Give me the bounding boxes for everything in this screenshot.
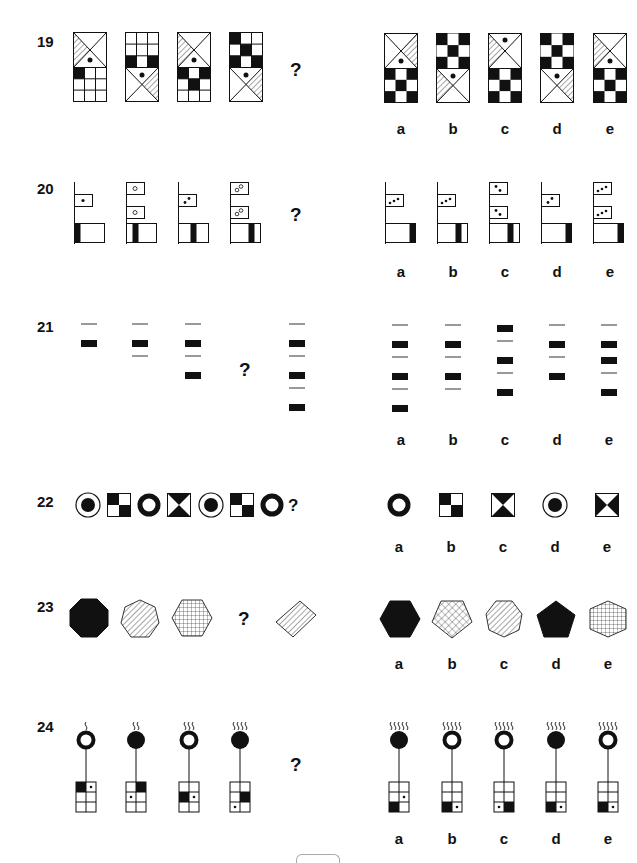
q22-label-c: c	[493, 538, 513, 555]
question-number-20: 20	[37, 180, 54, 197]
question-number-19: 19	[37, 33, 54, 50]
q22-seq-ring-1	[137, 493, 161, 517]
question-number-22: 22	[37, 493, 54, 510]
q20-label-b: b	[443, 263, 463, 280]
q21-option-e[interactable]	[601, 323, 617, 413]
q19-seq-4	[229, 32, 263, 102]
q19-seq-3	[177, 32, 211, 102]
q20-option-b[interactable]	[437, 182, 469, 244]
q19-option-b[interactable]	[436, 33, 470, 103]
q24-seq-4	[229, 720, 251, 812]
q23-seq-heptagon	[120, 599, 160, 638]
q22-seq-target-2	[198, 492, 224, 518]
q20-option-a[interactable]	[385, 182, 417, 244]
q24-missing-mark: ?	[290, 754, 302, 776]
q24-label-c: c	[494, 830, 514, 847]
question-number-24: 24	[37, 718, 54, 735]
q20-option-c[interactable]	[489, 182, 521, 244]
q23-missing-mark: ?	[238, 608, 250, 630]
q21-label-e: e	[599, 431, 619, 448]
q24-seq-3	[178, 720, 200, 812]
q23-label-d: d	[546, 655, 566, 672]
q19-label-e: e	[600, 120, 620, 137]
q22-seq-ring-2	[260, 493, 284, 517]
q19-label-c: c	[495, 120, 515, 137]
q22-label-a: a	[389, 538, 409, 555]
q19-option-a[interactable]	[384, 33, 418, 103]
q24-seq-1	[75, 720, 97, 812]
q24-option-b[interactable]	[441, 720, 463, 812]
q24-option-e[interactable]	[597, 720, 619, 812]
q20-label-a: a	[391, 263, 411, 280]
q21-seq-1	[81, 322, 97, 412]
q22-seq-quad-2	[230, 493, 254, 517]
q22-label-b: b	[441, 538, 461, 555]
q22-option-e[interactable]	[595, 493, 619, 517]
q22-option-d[interactable]	[542, 492, 568, 518]
q19-label-a: a	[391, 120, 411, 137]
q20-seq-1	[74, 182, 106, 244]
q22-option-b[interactable]	[439, 493, 463, 517]
q22-missing-mark: ?	[288, 496, 298, 516]
q24-option-a[interactable]	[388, 720, 410, 812]
page-number-tab	[296, 854, 340, 863]
q21-missing-mark: ?	[239, 359, 251, 381]
q23-option-e[interactable]	[589, 600, 627, 638]
q24-label-e: e	[598, 830, 618, 847]
q20-label-c: c	[495, 263, 515, 280]
q21-option-d[interactable]	[549, 323, 565, 413]
q23-label-b: b	[442, 655, 462, 672]
q22-seq-target-1	[75, 492, 101, 518]
q21-option-a[interactable]	[392, 323, 408, 413]
q23-seq-square	[275, 600, 317, 638]
q20-label-d: d	[547, 263, 567, 280]
question-number-21: 21	[37, 318, 54, 335]
q24-option-c[interactable]	[493, 720, 515, 812]
q20-option-d[interactable]	[541, 182, 573, 244]
q20-seq-3	[178, 182, 210, 244]
q19-option-e[interactable]	[593, 33, 627, 103]
q23-label-e: e	[598, 655, 618, 672]
q22-seq-hourglass	[167, 493, 191, 517]
q24-option-d[interactable]	[545, 720, 567, 812]
q23-seq-hexagon	[171, 599, 213, 637]
q23-option-b[interactable]	[431, 600, 473, 639]
q22-label-d: d	[545, 538, 565, 555]
q24-label-a: a	[389, 830, 409, 847]
q23-label-c: c	[494, 655, 514, 672]
question-number-23: 23	[37, 598, 54, 615]
q21-label-c: c	[495, 431, 515, 448]
q19-option-d[interactable]	[540, 33, 574, 103]
q19-missing-mark: ?	[290, 59, 302, 81]
q21-option-c[interactable]	[497, 323, 513, 413]
q22-seq-quad-1	[107, 493, 131, 517]
q19-option-c[interactable]	[488, 33, 522, 103]
q23-label-a: a	[389, 655, 409, 672]
q20-seq-2	[126, 182, 158, 244]
q23-option-c[interactable]	[485, 600, 523, 638]
q19-seq-1	[73, 32, 107, 102]
q23-option-a[interactable]	[379, 600, 421, 638]
q21-label-d: d	[547, 431, 567, 448]
q23-seq-octagon	[69, 598, 109, 638]
q19-label-d: d	[547, 120, 567, 137]
q21-option-b[interactable]	[445, 323, 461, 413]
q21-seq-5	[289, 322, 305, 412]
q22-option-c[interactable]	[491, 493, 515, 517]
q24-label-d: d	[546, 830, 566, 847]
q21-label-b: b	[443, 431, 463, 448]
q20-option-e[interactable]	[593, 182, 625, 244]
q21-seq-3	[185, 322, 201, 412]
q20-label-e: e	[600, 263, 620, 280]
q24-label-b: b	[442, 830, 462, 847]
q22-label-e: e	[597, 538, 617, 555]
q21-seq-2	[132, 322, 148, 412]
q24-seq-2	[125, 720, 147, 812]
q19-label-b: b	[443, 120, 463, 137]
q22-option-a[interactable]	[387, 493, 411, 517]
q20-missing-mark: ?	[290, 204, 302, 226]
q23-option-d[interactable]	[536, 600, 576, 638]
q19-seq-2	[125, 32, 159, 102]
q21-label-a: a	[391, 431, 411, 448]
q20-seq-4	[230, 182, 262, 244]
